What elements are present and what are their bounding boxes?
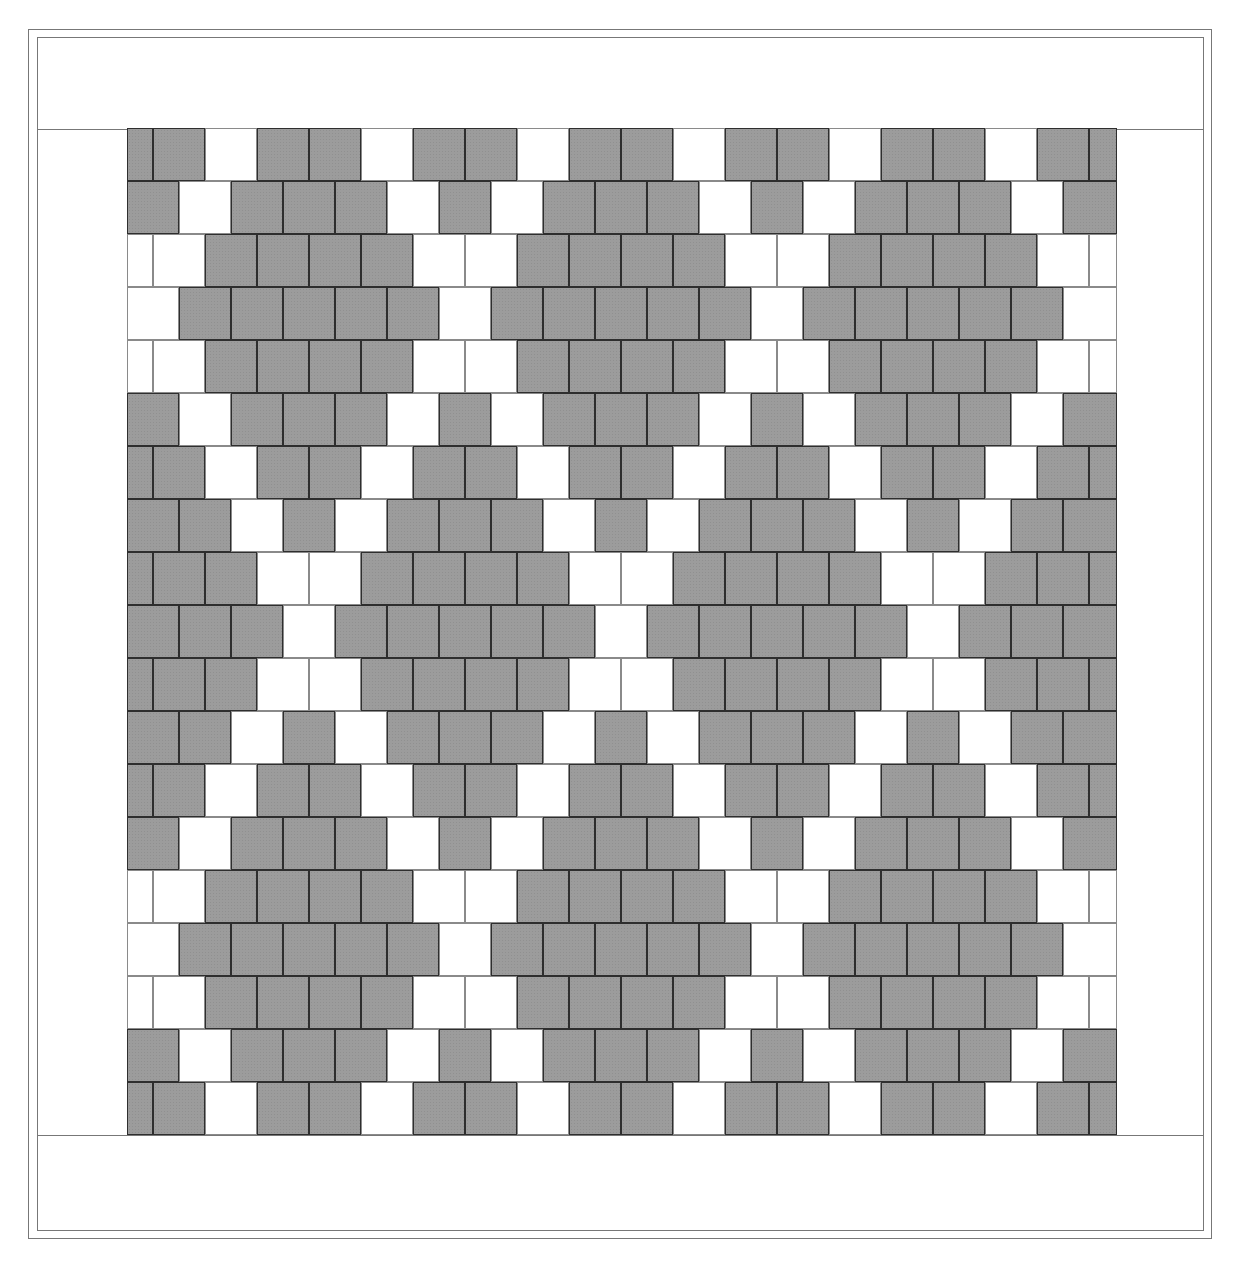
- gray-tile: [569, 340, 621, 393]
- gray-tile: [725, 764, 777, 817]
- white-tile: [621, 552, 673, 605]
- white-tile: [439, 287, 491, 340]
- white-tile: [1011, 181, 1063, 234]
- gray-tile: [673, 658, 725, 711]
- bottom-divider-line: [37, 1135, 1204, 1136]
- white-tile: [361, 764, 413, 817]
- gray-tile: [361, 552, 413, 605]
- gray-tile: [205, 340, 257, 393]
- white-tile: [647, 711, 699, 764]
- white-tile: [751, 923, 803, 976]
- gray-tile: [517, 234, 569, 287]
- white-tile: [959, 499, 1011, 552]
- gray-tile: [803, 287, 855, 340]
- white-tile: [335, 711, 387, 764]
- gray-tile: [1063, 1029, 1117, 1082]
- white-tile: [725, 870, 777, 923]
- gray-tile: [725, 658, 777, 711]
- gray-tile: [179, 499, 231, 552]
- gray-tile: [855, 923, 907, 976]
- white-tile: [491, 1029, 543, 1082]
- white-tile: [179, 181, 231, 234]
- gray-tile: [465, 764, 517, 817]
- gray-tile: [1089, 446, 1117, 499]
- gray-tile: [257, 976, 309, 1029]
- white-tile: [205, 764, 257, 817]
- gray-tile: [803, 499, 855, 552]
- white-tile: [1089, 870, 1117, 923]
- gray-tile: [335, 1029, 387, 1082]
- gray-tile: [283, 181, 335, 234]
- white-tile: [361, 1082, 413, 1135]
- white-tile: [127, 287, 179, 340]
- gray-tile: [621, 128, 673, 181]
- gray-tile: [933, 446, 985, 499]
- gray-tile: [777, 658, 829, 711]
- gray-tile: [127, 128, 153, 181]
- gray-tile: [439, 817, 491, 870]
- white-tile: [127, 234, 153, 287]
- white-tile: [777, 340, 829, 393]
- gray-tile: [153, 552, 205, 605]
- gray-tile: [673, 870, 725, 923]
- gray-tile: [1011, 287, 1063, 340]
- gray-tile: [205, 234, 257, 287]
- gray-tile: [595, 1029, 647, 1082]
- gray-tile: [751, 499, 803, 552]
- gray-tile: [283, 287, 335, 340]
- gray-tile: [335, 181, 387, 234]
- gray-tile: [621, 446, 673, 499]
- gray-tile: [1037, 446, 1089, 499]
- gray-tile: [933, 764, 985, 817]
- gray-tile: [1089, 1082, 1117, 1135]
- gray-tile: [465, 128, 517, 181]
- gray-tile: [543, 605, 595, 658]
- gray-tile: [647, 393, 699, 446]
- gray-tile: [309, 870, 361, 923]
- gray-tile: [491, 923, 543, 976]
- gray-tile: [933, 976, 985, 1029]
- white-tile: [127, 923, 179, 976]
- white-tile: [439, 923, 491, 976]
- gray-tile: [1089, 764, 1117, 817]
- white-tile: [569, 658, 621, 711]
- gray-tile: [465, 552, 517, 605]
- gray-tile: [517, 552, 569, 605]
- gray-tile: [283, 1029, 335, 1082]
- gray-tile: [933, 128, 985, 181]
- gray-tile: [881, 340, 933, 393]
- gray-tile: [439, 393, 491, 446]
- gray-tile: [699, 499, 751, 552]
- white-tile: [179, 1029, 231, 1082]
- white-tile: [1011, 1029, 1063, 1082]
- white-tile: [517, 764, 569, 817]
- gray-tile: [959, 287, 1011, 340]
- white-tile: [491, 817, 543, 870]
- gray-tile: [1063, 605, 1117, 658]
- gray-tile: [361, 658, 413, 711]
- gray-tile: [985, 870, 1037, 923]
- gray-tile: [751, 393, 803, 446]
- gray-tile: [413, 764, 465, 817]
- gray-tile: [699, 923, 751, 976]
- white-tile: [543, 499, 595, 552]
- white-tile: [881, 552, 933, 605]
- gray-tile: [595, 499, 647, 552]
- gray-tile: [439, 711, 491, 764]
- gray-tile: [855, 287, 907, 340]
- white-tile: [517, 128, 569, 181]
- gray-tile: [569, 976, 621, 1029]
- gray-tile: [881, 870, 933, 923]
- gray-tile: [829, 552, 881, 605]
- gray-tile: [673, 976, 725, 1029]
- gray-tile: [179, 605, 231, 658]
- gray-tile: [647, 1029, 699, 1082]
- gray-tile: [699, 711, 751, 764]
- white-tile: [829, 764, 881, 817]
- gray-tile: [413, 552, 465, 605]
- gray-tile: [1089, 552, 1117, 605]
- gray-tile: [1063, 181, 1117, 234]
- gray-tile: [465, 446, 517, 499]
- gray-tile: [621, 870, 673, 923]
- gray-tile: [621, 234, 673, 287]
